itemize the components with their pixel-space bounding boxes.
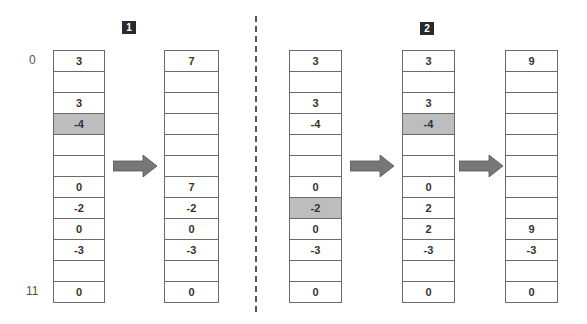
array-cell: -3 bbox=[290, 240, 341, 261]
array-cell bbox=[506, 93, 557, 114]
array-column-2: 77-20-30 bbox=[164, 50, 219, 303]
array-column-3: 33-40-20-30 bbox=[289, 50, 342, 303]
array-cell: 0 bbox=[54, 177, 104, 198]
array-cell: 2 bbox=[403, 198, 454, 219]
array-cell: 0 bbox=[290, 177, 341, 198]
step-1-badge: 1 bbox=[122, 21, 136, 34]
array-cell bbox=[165, 114, 218, 135]
array-cell: 0 bbox=[403, 177, 454, 198]
right-arrow-icon bbox=[350, 155, 394, 177]
array-column-4: 33-4022-30 bbox=[402, 50, 455, 303]
array-cell: -3 bbox=[403, 240, 454, 261]
array-cell bbox=[506, 261, 557, 282]
array-cell: -2 bbox=[54, 198, 104, 219]
array-cell: -3 bbox=[506, 240, 557, 261]
array-cell bbox=[165, 135, 218, 156]
array-cell bbox=[290, 135, 341, 156]
array-cell: -2 bbox=[165, 198, 218, 219]
array-cell: 0 bbox=[290, 219, 341, 240]
array-cell bbox=[506, 177, 557, 198]
array-cell: -3 bbox=[165, 240, 218, 261]
right-arrow-icon bbox=[113, 155, 157, 177]
array-cell bbox=[403, 72, 454, 93]
array-cell bbox=[290, 261, 341, 282]
array-cell: 0 bbox=[165, 282, 218, 303]
array-cell: 9 bbox=[506, 219, 557, 240]
array-cell bbox=[403, 156, 454, 177]
array-cell bbox=[54, 72, 104, 93]
array-cell: -4 bbox=[54, 114, 104, 135]
array-cell bbox=[506, 198, 557, 219]
array-cell: 2 bbox=[403, 219, 454, 240]
array-cell bbox=[290, 72, 341, 93]
array-cell bbox=[506, 135, 557, 156]
array-cell bbox=[506, 72, 557, 93]
array-cell: -4 bbox=[403, 114, 454, 135]
index-label-last: 11 bbox=[26, 284, 38, 298]
array-cell bbox=[54, 135, 104, 156]
array-cell: 3 bbox=[290, 51, 341, 72]
array-cell: -2 bbox=[290, 198, 341, 219]
array-cell: 3 bbox=[403, 51, 454, 72]
array-cell: 3 bbox=[290, 93, 341, 114]
array-cell bbox=[54, 261, 104, 282]
array-cell bbox=[506, 156, 557, 177]
array-cell: 0 bbox=[54, 219, 104, 240]
array-cell: 0 bbox=[165, 219, 218, 240]
index-label-first: 0 bbox=[29, 53, 36, 67]
section-divider bbox=[255, 16, 257, 312]
array-cell: 7 bbox=[165, 177, 218, 198]
array-cell: 7 bbox=[165, 51, 218, 72]
array-cell: 0 bbox=[54, 282, 104, 303]
array-cell: 0 bbox=[290, 282, 341, 303]
array-cell: 3 bbox=[54, 93, 104, 114]
array-cell bbox=[403, 261, 454, 282]
array-cell bbox=[403, 135, 454, 156]
array-cell bbox=[290, 156, 341, 177]
array-cell: 0 bbox=[506, 282, 557, 303]
array-cell: -4 bbox=[290, 114, 341, 135]
step-2-badge: 2 bbox=[420, 22, 434, 35]
array-cell bbox=[165, 72, 218, 93]
array-cell: 0 bbox=[403, 282, 454, 303]
array-cell bbox=[165, 261, 218, 282]
array-cell: 3 bbox=[54, 51, 104, 72]
array-cell: 9 bbox=[506, 51, 557, 72]
array-cell bbox=[165, 156, 218, 177]
array-cell: -3 bbox=[54, 240, 104, 261]
array-column-1: 33-40-20-30 bbox=[53, 50, 105, 303]
array-column-5: 99-30 bbox=[505, 50, 558, 303]
right-arrow-icon bbox=[459, 155, 503, 177]
array-cell bbox=[54, 156, 104, 177]
array-cell: 3 bbox=[403, 93, 454, 114]
array-cell bbox=[506, 114, 557, 135]
array-cell bbox=[165, 93, 218, 114]
